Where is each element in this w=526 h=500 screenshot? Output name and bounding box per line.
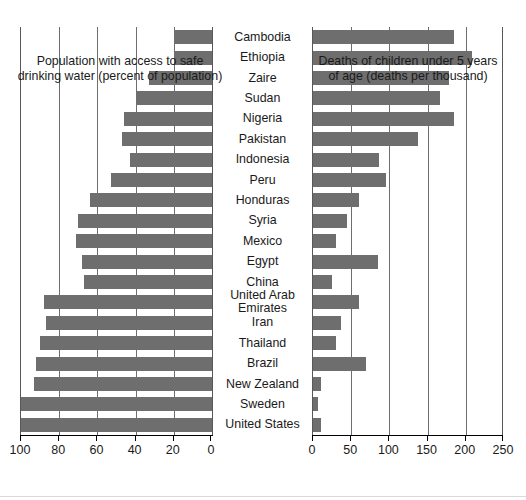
- bar: [313, 377, 321, 391]
- bar: [313, 316, 341, 330]
- bar: [76, 234, 212, 248]
- country-label: China: [214, 276, 311, 289]
- bar: [313, 153, 379, 167]
- bar: [34, 377, 212, 391]
- bar: [313, 357, 366, 371]
- bar: [313, 132, 418, 146]
- water-access-axis-title: Population with access to safe drinking …: [14, 54, 226, 84]
- axis-tick-label: 200: [454, 443, 475, 457]
- bar: [21, 418, 212, 432]
- axis-tick: [427, 436, 428, 441]
- axis-tick-label: 0: [208, 443, 215, 457]
- bar: [313, 418, 321, 432]
- country-label: Egypt: [214, 255, 311, 268]
- country-label: Thailand: [214, 337, 311, 350]
- country-label: Syria: [214, 214, 311, 227]
- axis-tick: [312, 436, 313, 441]
- country-label: United States: [214, 418, 311, 431]
- bar: [124, 112, 212, 126]
- country-label: Sudan: [214, 92, 311, 105]
- bar: [313, 336, 336, 350]
- bar: [21, 397, 212, 411]
- country-label: New Zealand: [214, 378, 311, 391]
- country-label-column: CambodiaEthiopiaZaireSudanNigeriaPakista…: [214, 27, 311, 435]
- bar: [82, 255, 212, 269]
- axis-tick-label: 80: [51, 443, 65, 457]
- axis-tick-label: 20: [166, 443, 180, 457]
- bar: [313, 275, 332, 289]
- country-label: United Arab Emirates: [214, 289, 311, 315]
- country-label: Cambodia: [214, 31, 311, 44]
- water-access-plot-area: [20, 27, 213, 435]
- country-label: Peru: [214, 174, 311, 187]
- bar: [78, 214, 212, 228]
- water-access-x-axis: 100806040200: [20, 435, 213, 442]
- gridline: [97, 27, 98, 435]
- bar: [44, 295, 212, 309]
- axis-tick-label: 100: [10, 443, 31, 457]
- bar: [313, 173, 386, 187]
- country-label: Nigeria: [214, 112, 311, 125]
- axis-tick: [135, 436, 136, 441]
- bar: [313, 214, 347, 228]
- country-label: Pakistan: [214, 133, 311, 146]
- gridline: [59, 27, 60, 435]
- gridline: [428, 27, 429, 435]
- page-bottom-rule: [0, 496, 526, 497]
- axis-tick-label: 60: [89, 443, 103, 457]
- bar: [313, 234, 336, 248]
- gridline: [466, 27, 467, 435]
- axis-tick: [20, 436, 21, 441]
- bar: [40, 336, 212, 350]
- bar: [313, 30, 454, 44]
- under-five-mortality-plot-area: [312, 27, 503, 435]
- axis-tick: [465, 436, 466, 441]
- under-five-mortality-axis-title: Deaths of children under 5 years of age …: [308, 54, 508, 84]
- bar: [111, 173, 212, 187]
- axis-tick-label: 250: [493, 443, 514, 457]
- country-label: Ethiopia: [214, 51, 311, 64]
- country-label: Indonesia: [214, 153, 311, 166]
- under-five-mortality-x-axis: 050100150200250: [312, 435, 503, 442]
- bar: [90, 193, 212, 207]
- axis-tick: [173, 436, 174, 441]
- gridline: [136, 27, 137, 435]
- axis-tick: [502, 436, 503, 441]
- bar: [84, 275, 212, 289]
- axis-tick-label: 100: [378, 443, 399, 457]
- bar: [313, 295, 359, 309]
- bar: [313, 255, 378, 269]
- gridline: [389, 27, 390, 435]
- axis-tick: [350, 436, 351, 441]
- bar: [313, 91, 440, 105]
- country-label: Brazil: [214, 357, 311, 370]
- axis-tick-label: 0: [309, 443, 316, 457]
- axis-tick: [96, 436, 97, 441]
- bar: [313, 112, 454, 126]
- country-label: Iran: [214, 316, 311, 329]
- dual-bar-chart-figure: 100806040200 Population with access to s…: [0, 0, 526, 500]
- country-label: Zaire: [214, 72, 311, 85]
- bar: [122, 132, 212, 146]
- gridline: [351, 27, 352, 435]
- country-label: Mexico: [214, 235, 311, 248]
- axis-tick: [210, 436, 211, 441]
- axis-tick-label: 40: [128, 443, 142, 457]
- bar: [136, 91, 212, 105]
- bar: [36, 357, 212, 371]
- bar: [130, 153, 212, 167]
- bar: [313, 397, 318, 411]
- bar: [174, 30, 212, 44]
- axis-tick: [58, 436, 59, 441]
- axis-tick-label: 50: [343, 443, 357, 457]
- axis-tick-label: 150: [416, 443, 437, 457]
- bar: [46, 316, 212, 330]
- gridline: [174, 27, 175, 435]
- country-label: Sweden: [214, 398, 311, 411]
- bar: [313, 193, 359, 207]
- axis-tick: [388, 436, 389, 441]
- country-label: Honduras: [214, 194, 311, 207]
